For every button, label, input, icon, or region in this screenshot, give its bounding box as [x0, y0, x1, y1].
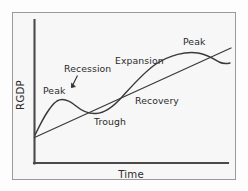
business-cycle-chart: RGDP Time Peak Recession Trough Expansio…	[0, 0, 248, 191]
y-axis-title: RGDP	[15, 80, 26, 110]
label-trough: Trough	[93, 116, 126, 127]
recession-arrowhead-icon	[70, 83, 76, 89]
label-recession: Recession	[64, 63, 111, 74]
x-axis-title: Time	[117, 169, 144, 180]
label-expansion: Expansion	[115, 55, 164, 66]
business-cycle-figure: RGDP Time Peak Recession Trough Expansio…	[0, 0, 248, 191]
label-peak-second: Peak	[183, 36, 206, 47]
label-peak-first: Peak	[43, 85, 66, 96]
label-recovery: Recovery	[135, 95, 179, 106]
